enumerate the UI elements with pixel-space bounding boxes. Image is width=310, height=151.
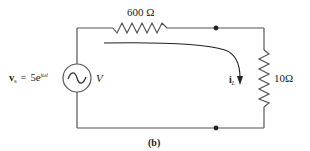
node-dot-bottom (214, 126, 219, 131)
current-arrowhead-icon (237, 76, 243, 85)
resistor-10-label: 10Ω (274, 72, 293, 84)
source-unit: V (96, 72, 104, 84)
source-coefficient: 5e (31, 72, 41, 83)
resistor-10-zigzag (259, 50, 269, 107)
current-arrow-curve (104, 43, 240, 78)
source-subscript: s (14, 78, 17, 84)
source-label: vs=5ejωt (9, 72, 48, 84)
circuit-diagram: 600 Ω 10Ω iL vs=5ejωt V (b) (0, 0, 310, 151)
source-equals: = (21, 72, 27, 83)
ac-source-sine-icon (68, 73, 86, 83)
resistor-600-zigzag (113, 23, 167, 33)
figure-caption: (b) (148, 137, 160, 149)
node-dot-top (214, 26, 219, 31)
source-exponent: jωt (39, 72, 48, 78)
resistor-600-label: 600 Ω (127, 6, 154, 18)
current-subscript: L (231, 80, 236, 86)
current-label: iL (229, 74, 236, 86)
